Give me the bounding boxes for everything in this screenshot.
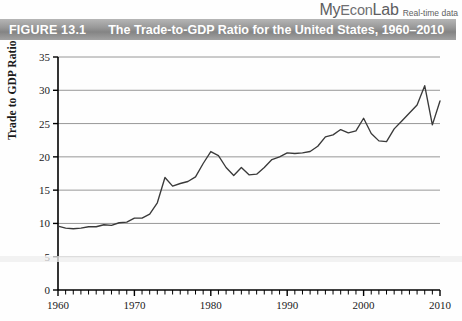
x-tick-label: 2000: [353, 299, 376, 311]
logo-my-text: My: [319, 1, 340, 18]
figure-root: MyEconLab Real-time data FIGURE 13.1 The…: [0, 0, 462, 321]
logo-econ-text: Econ: [340, 2, 372, 18]
x-tick-label: 1970: [123, 299, 146, 311]
x-tick-label: 1980: [200, 299, 223, 311]
figure-title-bar: FIGURE 13.1 The Trade-to-GDP Ratio for t…: [0, 19, 456, 40]
y-tick-label: 25: [39, 118, 51, 130]
x-tick-label: 1960: [47, 299, 70, 311]
x-tick-label: 2010: [429, 299, 452, 311]
chart-container: Trade to GDP Ratio 051015202530351960197…: [0, 44, 462, 321]
x-tick-label: 1990: [276, 299, 299, 311]
y-tick-label: 0: [45, 284, 51, 296]
logo-lab-text: Lab: [373, 1, 399, 18]
realtime-data-tag: Real-time data: [403, 9, 458, 19]
y-tick-label: 15: [39, 184, 51, 196]
y-tick-label: 10: [39, 217, 51, 229]
figure-number: FIGURE 13.1: [0, 23, 86, 37]
myeconlab-logo: MyEconLab: [319, 2, 398, 18]
scan-band-upper: [0, 256, 462, 262]
y-tick-label: 20: [39, 151, 51, 163]
figure-title: The Trade-to-GDP Ratio for the United St…: [86, 23, 444, 37]
myeconlab-brand: MyEconLab Real-time data: [319, 0, 458, 18]
y-axis-title: Trade to GDP Ratio: [6, 40, 18, 140]
y-tick-label: 30: [39, 84, 51, 96]
y-tick-label: 35: [39, 51, 51, 63]
trade-to-gdp-line-chart: 05101520253035196019701980199020002010: [0, 44, 462, 321]
